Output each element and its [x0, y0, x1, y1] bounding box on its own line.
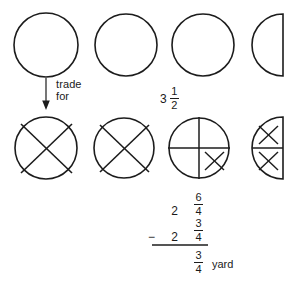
subtrahend-numerator: 3 [194, 218, 202, 230]
half-quarter-cross-bottom [259, 152, 278, 170]
mixed-whole-number: 3 [160, 92, 167, 106]
half-quarter-cross-top [259, 126, 278, 144]
quartered-half-circle [252, 117, 283, 179]
quartered-circle [168, 117, 230, 179]
result-numerator: 3 [194, 250, 202, 262]
minuend-whole: 2 [164, 204, 178, 218]
trade-for-label: trade for [56, 79, 82, 102]
minus-operator: − [148, 230, 155, 244]
subtrahend-whole: 2 [164, 230, 178, 244]
subtrahend-fraction: 3 4 [194, 218, 203, 243]
half-circle-1 [252, 14, 283, 76]
worksheet-canvas: trade for 3 1 2 2 6 4 − 2 3 4 [0, 0, 294, 284]
subtrahend-denominator: 4 [194, 231, 202, 243]
result-fraction: 3 4 [194, 250, 203, 275]
whole-circle-2 [95, 14, 157, 76]
trade-label-line1: trade [56, 78, 82, 90]
result-unit-label: yard [212, 258, 233, 270]
crossed-circle-1 [15, 117, 77, 179]
fraction-denominator: 2 [170, 99, 178, 111]
whole-circle-3 [172, 14, 234, 76]
subtraction-problem: 2 6 4 − 2 3 4 3 4 yard [150, 192, 280, 278]
quantity-three-and-one-half: 3 1 2 [160, 86, 179, 111]
whole-circle-1 [14, 13, 78, 77]
trade-label-line2: for [56, 91, 82, 103]
result-denominator: 4 [194, 263, 202, 275]
mixed-fraction: 1 2 [170, 86, 179, 111]
minuend-denominator: 4 [194, 205, 202, 217]
crossed-circle-2 [94, 118, 154, 178]
trade-arrow-icon [42, 78, 50, 110]
minuend-numerator: 6 [194, 192, 202, 204]
quarter-cross-mark [205, 152, 224, 170]
minuend-fraction: 6 4 [194, 192, 203, 217]
fraction-numerator: 1 [170, 86, 178, 98]
